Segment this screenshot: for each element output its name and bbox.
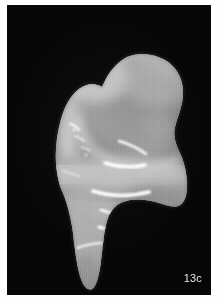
tooth-specimen-drawing (7, 5, 211, 295)
figure-label: 13c (184, 273, 202, 284)
lower-streak-a (101, 210, 129, 213)
tooth-body (7, 5, 211, 295)
tooth-specimen (7, 5, 211, 295)
figure-plate: 13c (0, 0, 220, 306)
crown-apex-highlight (61, 51, 129, 103)
specimen-photograph: 13c (7, 5, 211, 295)
